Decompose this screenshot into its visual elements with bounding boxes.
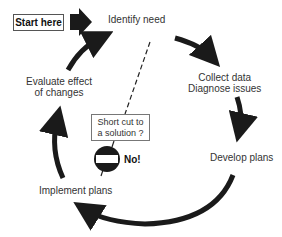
stage-collect-data: Collect data Diagnose issues	[188, 72, 261, 94]
stage-develop-plans: Develop plans	[210, 152, 273, 163]
arrow-collect-to-develop-icon	[237, 97, 241, 128]
stage-evaluate-effect: Evaluate effect of changes	[26, 76, 92, 98]
start-arrow-icon	[70, 8, 92, 36]
stage-implement-plans: Implement plans	[39, 185, 112, 196]
no-entry-icon	[94, 146, 120, 172]
arrow-evaluate-to-identify-icon	[68, 38, 100, 70]
arrow-implement-to-evaluate-icon	[55, 120, 63, 178]
stage-identify-need: Identify need	[108, 14, 165, 25]
shortcut-question-box: Short cut to a solution ?	[91, 114, 150, 141]
shortcut-dashed-line	[125, 42, 150, 114]
start-here-label: Start here	[13, 14, 64, 31]
arrow-develop-to-implement-icon	[86, 175, 233, 224]
no-answer-label: No!	[124, 154, 141, 165]
arrow-identify-to-collect-icon	[175, 38, 210, 56]
